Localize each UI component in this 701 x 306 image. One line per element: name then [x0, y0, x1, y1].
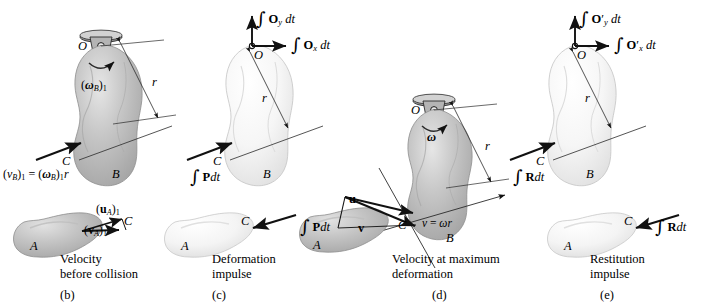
panel-c-impulse-ox-label: ∫ Ox dt — [291, 36, 330, 54]
panel-e-point-c-label-a: C — [624, 215, 632, 228]
panel-d — [299, 94, 509, 268]
panel-e-impulse-oy-label: ∫ O′y dt — [579, 10, 621, 28]
panel-c-body-a — [164, 213, 253, 257]
panel-c-deformation-impulse-arrow-a — [253, 215, 296, 228]
panel-c-id: (c) — [212, 288, 226, 303]
panel-e-caption-line2: impulse — [590, 267, 630, 281]
panel-b-id: (b) — [60, 288, 75, 303]
panel-d-angular-velocity-label: ω — [427, 131, 436, 144]
panel-e-body-b-label: B — [586, 168, 594, 181]
panel-e-impulse-r-a-label: ∫ Rdt — [655, 218, 686, 236]
panel-e-point-o-label: O — [577, 49, 586, 62]
panel-b-angular-velocity-label: (ωB)1 — [81, 79, 107, 93]
panel-b-point-c-label-a: C — [124, 215, 132, 228]
panel-b-velocity-equation-label: (vB)1 = (ωB)1r — [3, 168, 69, 182]
panel-e-body-a-label: A — [564, 240, 572, 253]
panel-e-radius-label: r — [585, 92, 590, 105]
panel-b-vector-u-label: (uA)1 — [96, 203, 120, 217]
panel-b-body-a-label: A — [30, 240, 38, 253]
panel-d-caption-line1: Velocity at maximum — [392, 252, 500, 266]
panel-b-point-c-label: C — [62, 155, 70, 168]
panel-c-caption-line2: impulse — [212, 267, 252, 281]
panel-e-point-c-label: C — [536, 155, 544, 168]
panel-d-id: (d) — [432, 288, 447, 303]
panel-d-vector-v-label: v — [358, 222, 364, 235]
panel-b-point-o-label: O — [78, 40, 87, 53]
panel-c-impulse-p-a-label: ∫ Pdt — [300, 218, 330, 236]
panel-e-caption: Restitution impulse — [590, 252, 645, 282]
panel-d-caption: Velocity at maximum deformation — [392, 252, 500, 282]
panel-d-caption-line2: deformation — [392, 267, 453, 281]
panel-d-body-a-label: A — [313, 239, 321, 252]
panel-d-point-o-label: O — [411, 104, 420, 117]
panel-b-body-b-label: B — [112, 168, 120, 181]
panel-c-impulse-oy-label: ∫ Oy dt — [256, 10, 295, 28]
panel-c-caption-line1: Deformation — [212, 252, 276, 266]
panel-c-caption: Deformation impulse — [212, 252, 276, 282]
panel-b-caption: Velocity before collision — [60, 252, 138, 282]
panel-d-radius-label: r — [485, 140, 490, 153]
panel-c-point-o-label: O — [254, 49, 263, 62]
panel-b-caption-line1: Velocity — [60, 252, 102, 266]
panel-d-point-c-label: C — [398, 219, 406, 232]
panel-d-velocity-equation-label: v = ωr — [422, 218, 452, 230]
panel-b-caption-line2: before collision — [60, 267, 138, 281]
panel-b-radius-label: r — [152, 76, 157, 89]
panel-d-body-b-label: B — [446, 232, 454, 245]
panel-e-caption-line1: Restitution — [590, 252, 645, 266]
panel-d-vector-u-label: u — [349, 193, 356, 206]
panel-b-vector-v-label: (vA)1 — [84, 224, 107, 238]
panel-c-point-c-label: C — [213, 155, 221, 168]
panel-e-impulse-r-b-label: ∫ Rdt — [513, 168, 544, 186]
panel-e-id: (e) — [600, 288, 614, 303]
panel-c-body-b-label: B — [263, 168, 271, 181]
panel-c-impulse-p-b-label: ∫ Pdt — [190, 168, 220, 186]
panel-c-body-a-label: A — [181, 240, 189, 253]
panel-c-point-c-label-a: C — [241, 215, 249, 228]
panel-e-body-a — [547, 213, 636, 257]
panel-e-impulse-ox-label: ∫ O′x dt — [614, 36, 656, 54]
panel-c-radius-label: r — [262, 92, 267, 105]
